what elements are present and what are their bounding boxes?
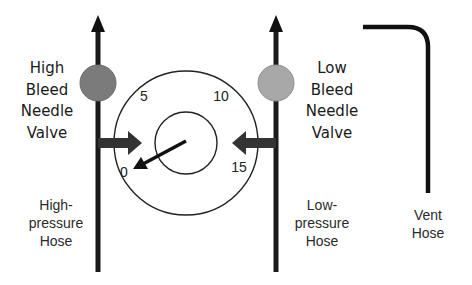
gauge-inner-dial	[155, 112, 217, 174]
pressure-gauge-diagram: 0 5 10 15 High Bleed Needle Valve Low	[0, 0, 472, 285]
gauge-tick-0: 0	[120, 164, 128, 180]
high-pressure-input-arrow-icon	[98, 131, 142, 155]
low-bleed-needle-valve[interactable]	[258, 65, 294, 101]
high-bleed-needle-valve[interactable]	[80, 65, 116, 101]
gauge-tick-15: 15	[231, 159, 247, 175]
low-outflow-arrow-icon	[269, 15, 283, 32]
high-bleed-needle-valve-label: High Bleed Needle Valve	[16, 58, 78, 144]
high-outflow-arrow-icon	[91, 15, 105, 32]
low-bleed-needle-valve-label: Low Bleed Needle Valve	[301, 58, 363, 144]
vent-hose-label: Vent Hose	[403, 206, 453, 242]
low-pressure-input-arrow-icon	[232, 131, 276, 155]
gauge-tick-5: 5	[140, 88, 148, 104]
gauge-tick-10: 10	[213, 88, 229, 104]
low-pressure-hose-label: Low- pressure Hose	[288, 196, 356, 250]
vent-hose	[363, 27, 428, 193]
gauge-needle	[133, 141, 186, 169]
high-pressure-hose-label: High- pressure Hose	[22, 196, 90, 250]
